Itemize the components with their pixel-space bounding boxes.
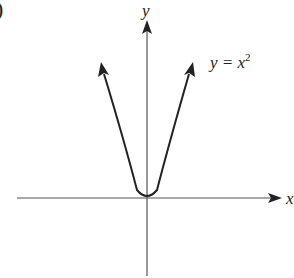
x-axis-label: x [286, 190, 294, 207]
y-axis-label: y [142, 2, 150, 19]
graph [0, 0, 294, 278]
curve-label: y = x2 [210, 52, 251, 71]
curve-label-exponent: 2 [245, 51, 251, 63]
curve-label-text: y = x [210, 53, 245, 72]
figure: ) y x y = x2 [0, 0, 294, 278]
